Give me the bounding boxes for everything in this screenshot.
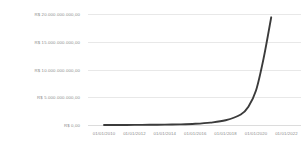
y-tick-label: R$ 15.000.000.000,00	[34, 39, 80, 44]
x-tick-label: 01/01/2016	[184, 131, 207, 136]
y-axis: R$ 20.000.000.000,00 R$ 15.000.000.000,0…	[0, 0, 84, 149]
x-tick-label: 01/01/2018	[214, 131, 237, 136]
y-tick-label: R$ 5.000.000.000,00	[37, 95, 80, 100]
y-tick-label: R$ 0,00	[64, 123, 80, 128]
plot-area	[88, 14, 301, 125]
exponential-growth-line-chart: R$ 20.000.000.000,00 R$ 15.000.000.000,0…	[0, 0, 304, 149]
y-tick-label: R$ 10.000.000.000,00	[34, 67, 80, 72]
x-tick-label: 01/01/2022	[275, 131, 298, 136]
series-line-0	[104, 17, 271, 125]
x-axis: 01/01/2010 01/01/2012 01/01/2014 01/01/2…	[88, 131, 301, 145]
y-tick-label: R$ 20.000.000.000,00	[34, 12, 80, 17]
series-plot	[88, 14, 301, 125]
x-tick-label: 01/01/2010	[93, 131, 116, 136]
x-tick-label: 01/01/2012	[123, 131, 146, 136]
x-tick-label: 01/01/2020	[245, 131, 268, 136]
x-tick-label: 01/01/2014	[154, 131, 177, 136]
